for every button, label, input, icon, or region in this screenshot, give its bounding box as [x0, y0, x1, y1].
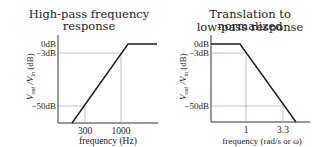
right-xtick-1: 1 [244, 125, 249, 135]
left-ytick-minus3db: −3dB [36, 48, 56, 58]
left-xtick-1000: 1000 [112, 126, 131, 136]
frequency-response-diagrams: 0dB −3dB −50dB 300 1000 frequency (Hz) V… [0, 0, 320, 147]
right-chart: 0dB −3dB −50dB 1 3.3 frequency (rad/s or… [178, 35, 310, 146]
right-x-axis-label: frequency (rad/s or ω) [222, 136, 302, 146]
left-chart: 0dB −3dB −50dB 300 1000 frequency (Hz) V… [25, 35, 158, 147]
left-xtick-300: 300 [78, 126, 93, 136]
left-ytick-minus50db: −50dB [31, 101, 56, 111]
right-ytick-minus50db: −50dB [184, 101, 209, 111]
left-y-axis-label: Vout /Vin (dB) [25, 53, 36, 100]
right-xtick-3-3: 3.3 [277, 125, 289, 135]
right-y-axis-label: Vout /Vin (dB) [178, 53, 189, 100]
right-ytick-minus3db: −3dB [189, 48, 209, 58]
left-x-axis-label: frequency (Hz) [79, 136, 137, 147]
